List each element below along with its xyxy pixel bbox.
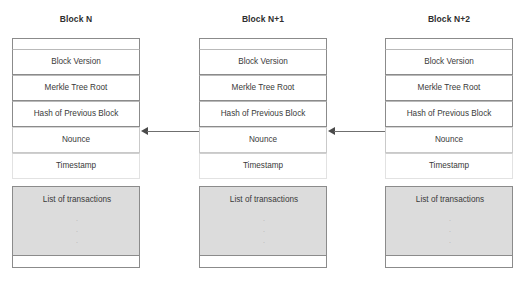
dot: . [386,235,514,246]
block-n-plus-1-field-hash-of-previous-block: Hash of Previous Block [199,101,327,127]
block-n-plus-2-field-block-version: Block Version [385,49,513,75]
dot: . [13,224,141,235]
block-n-plus-2-header: Block Version Merkle Tree Root Hash of P… [385,38,513,179]
block-n-plus-2-top-strip [385,38,513,49]
block-n-plus-1: Block Version Merkle Tree Root Hash of P… [199,38,327,268]
blockchain-diagram: Block N Block Version Merkle Tree Root H… [0,0,528,304]
block-n-field-timestamp: Timestamp [12,153,140,179]
block-n-transactions: List of transactions . . . [12,186,140,268]
block-n-plus-2-transactions-dots: . . . [386,213,514,246]
dot: . [13,213,141,224]
block-n-field-block-version: Block Version [12,49,140,75]
block-n-plus-1-field-timestamp: Timestamp [199,153,327,179]
block-n-plus-1-field-merkle-tree-root: Merkle Tree Root [199,75,327,101]
arrow-block-n-plus-2-to-block-n-plus-1 [328,127,385,136]
block-n-plus-2-field-timestamp: Timestamp [385,153,513,179]
block-n-plus-2-field-nounce: Nounce [385,127,513,153]
block-n-plus-1-transactions-footer [199,256,327,268]
dot: . [13,235,141,246]
block-n-transactions-dots: . . . [13,213,141,246]
block-n-plus-1-field-nounce: Nounce [199,127,327,153]
dot: . [200,235,328,246]
block-n-header: Block Version Merkle Tree Root Hash of P… [12,38,140,179]
dot: . [200,213,328,224]
block-n-plus-1-transactions-box: List of transactions . . . [199,186,327,256]
block-n-plus-1-transactions-dots: . . . [200,213,328,246]
block-n-plus-2-field-merkle-tree-root: Merkle Tree Root [385,75,513,101]
dot: . [386,213,514,224]
block-n-plus-2-field-hash-of-previous-block: Hash of Previous Block [385,101,513,127]
block-n-plus-1-transactions-label: List of transactions [200,195,328,204]
block-n-transactions-label: List of transactions [13,195,141,204]
block-n-transactions-box: List of transactions . . . [12,186,140,256]
block-n-plus-1-header: Block Version Merkle Tree Root Hash of P… [199,38,327,179]
block-n-plus-2-transactions-label: List of transactions [386,195,514,204]
block-n-field-merkle-tree-root: Merkle Tree Root [12,75,140,101]
arrow-line [334,131,385,132]
arrow-line [147,131,199,132]
block-n-plus-2-transactions-footer [385,256,513,268]
block-n-field-hash-of-previous-block: Hash of Previous Block [12,101,140,127]
dot: . [200,224,328,235]
block-n-plus-2-transactions: List of transactions . . . [385,186,513,268]
block-n-field-nounce: Nounce [12,127,140,153]
block-n-plus-1-top-strip [199,38,327,49]
block-n-plus-2: Block Version Merkle Tree Root Hash of P… [385,38,513,268]
arrow-block-n-plus-1-to-block-n [141,127,199,136]
block-n: Block Version Merkle Tree Root Hash of P… [12,38,140,268]
block-n-plus-1-transactions: List of transactions . . . [199,186,327,268]
block-n-top-strip [12,38,140,49]
block-n-transactions-footer [12,256,140,268]
block-title-n: Block N [12,14,140,24]
block-n-plus-2-transactions-box: List of transactions . . . [385,186,513,256]
block-title-n-plus-1: Block N+1 [199,14,327,24]
block-title-n-plus-2: Block N+2 [385,14,513,24]
dot: . [386,224,514,235]
block-n-plus-1-field-block-version: Block Version [199,49,327,75]
